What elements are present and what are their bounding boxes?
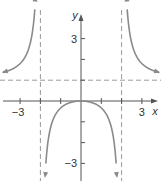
- y-axis-label: y: [71, 9, 79, 21]
- x-axis-label: x: [151, 105, 158, 117]
- curve-left-branch: [3, 9, 35, 72]
- x-tick-label: −3: [12, 106, 25, 118]
- y-tick-label: −3: [64, 157, 77, 169]
- y-axis-arrow-icon: [79, 14, 84, 21]
- tick-labels: −333−3xy: [12, 9, 158, 169]
- y-tick-label: 3: [71, 33, 77, 45]
- curve-arrow-icon: [1, 69, 8, 75]
- x-axis-arrow-icon: [151, 99, 158, 104]
- curve-arrow-icon: [154, 69, 161, 75]
- curve-arrow-icon: [42, 172, 48, 179]
- function-graph: −333−3xy: [0, 0, 161, 181]
- curve-right-branch: [127, 9, 159, 72]
- axes: [3, 14, 158, 181]
- curve-arrow-icon: [124, 0, 130, 2]
- x-tick-label: 3: [139, 106, 145, 118]
- curve-arrow-icon: [114, 172, 120, 179]
- curve-arrow-icon: [33, 0, 39, 2]
